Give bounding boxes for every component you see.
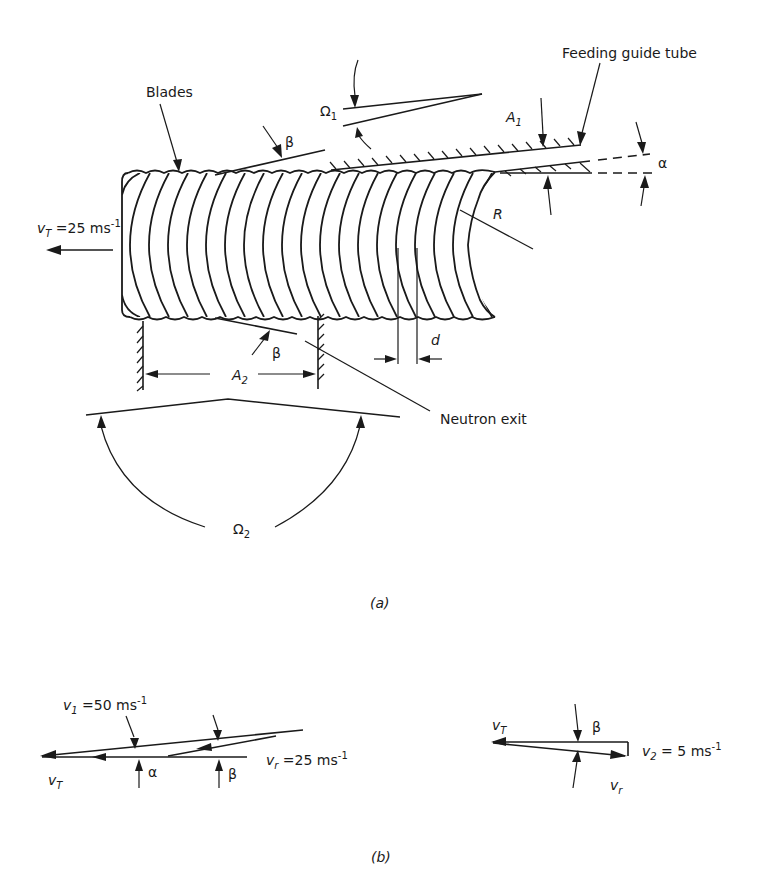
d-label: d [431, 332, 440, 348]
velocity-triangle-exit [491, 704, 628, 788]
turbine-blade-body [122, 170, 511, 319]
omega2-angle [86, 399, 400, 527]
vT-exit-label: vT [492, 717, 507, 736]
vr-entry-label: vr =25 ms-1 [266, 750, 348, 771]
vT-velocity-label: vT =25 ms-1 [37, 218, 121, 239]
beta-entry-label: β [228, 766, 237, 782]
A1-arrows [538, 98, 552, 215]
beta-bottom-arrow [252, 330, 270, 355]
neutron-exit-label: Neutron exit [440, 411, 527, 427]
part-b: v1 =50 ms-1 vr =25 ms-1 vT α β vT β v2 =… [40, 695, 722, 865]
blades-pointer-arrow [160, 104, 182, 172]
omega2-label: Ω2 [233, 521, 250, 540]
alpha-label: α [658, 155, 667, 171]
blades-label: Blades [146, 84, 193, 100]
vT-entry-label: vT [48, 772, 63, 791]
feeding-guide-tube-label: Feeding guide tube [562, 45, 697, 61]
beta-top-label: β [285, 134, 294, 150]
A1-label: A1 [505, 109, 522, 128]
velocity-triangle-entry [40, 715, 303, 788]
neutron-exit-pointer-line [305, 341, 430, 411]
caption-b: (b) [371, 849, 391, 865]
part-a: Blades β Ω1 [37, 45, 697, 611]
vr-exit-label: vr [610, 777, 623, 796]
beta-top-arrow [263, 126, 282, 158]
beta-bottom-label: β [272, 345, 281, 361]
A2-label: A2 [231, 367, 248, 386]
omega1-label: Ω1 [320, 103, 337, 122]
alpha-arrows [636, 122, 649, 206]
beta-bottom-tangent-line [215, 318, 297, 334]
feeding-tube-pointer-arrow [577, 63, 600, 146]
neutron-turbine-diagram: Blades β Ω1 [0, 0, 758, 884]
R-label: R [493, 206, 503, 222]
v1-label: v1 =50 ms-1 [63, 695, 147, 716]
alpha-entry-label: α [148, 764, 157, 780]
vT-direction-arrow [46, 245, 113, 255]
omega1-wedge [343, 60, 482, 149]
beta-exit-label: β [592, 719, 601, 735]
A2-exit-walls [137, 314, 324, 391]
caption-a: (a) [370, 595, 390, 611]
v2-label: v2 = 5 ms-1 [642, 741, 722, 762]
